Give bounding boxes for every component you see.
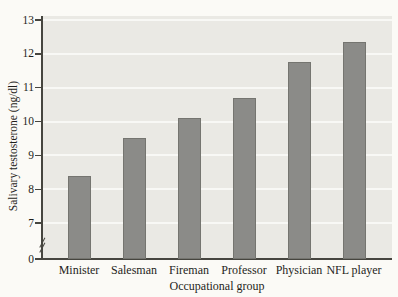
x-axis-line [41,258,392,260]
y-tick-label: 9 [6,149,34,162]
y-tick-label: 11 [6,81,34,94]
gridline [42,188,392,190]
y-axis-tick [35,121,42,123]
y-axis-tick [35,87,42,89]
bar-fireman [178,118,201,259]
plot-area [42,16,392,259]
bar-physician [288,62,311,259]
y-axis-tick [35,53,42,55]
y-tick-label: 0 [6,253,34,266]
x-axis-title: Occupational group [42,279,392,294]
bar-professor [233,98,256,259]
y-axis-tick [35,189,42,191]
bar-minister [68,176,91,259]
y-axis-tick [35,155,42,157]
gridline [42,222,392,224]
y-axis-tick [35,19,42,21]
y-tick-label: 13 [6,14,34,27]
gridline [42,19,392,21]
gridline [42,87,392,89]
y-tick-label: 7 [6,217,34,230]
y-tick-label: 8 [6,183,34,196]
bar-salesman [123,138,146,259]
bar-chart: Salivary testosterone (ng/dl) Occupation… [0,0,398,297]
gridline [42,154,392,156]
y-tick-label: 12 [6,47,34,60]
y-axis-tick [35,258,42,260]
y-axis-tick [35,222,42,224]
gridline [42,53,392,55]
x-category-label: NFL player [309,263,398,277]
y-tick-label: 10 [6,115,34,128]
gridline [42,121,392,123]
bar-nfl-player [343,42,366,259]
